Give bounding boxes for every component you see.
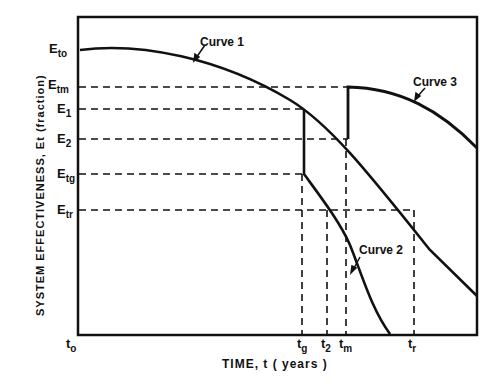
y-axis-title: SYSTEM EFFECTIVENESS, Et (fraction) <box>34 116 46 316</box>
curve-1-label: Curve 1 <box>200 35 244 49</box>
curve-3 <box>348 87 477 148</box>
ytick-e2: E2 <box>57 132 71 145</box>
ytick-main: E <box>57 202 66 217</box>
ytick-main: E <box>57 166 66 181</box>
curve-3-label: Curve 3 <box>413 75 457 89</box>
ytick-e1: E1 <box>57 102 71 115</box>
xtick-sub: 2 <box>325 343 331 354</box>
ytick-sub: tm <box>57 84 69 95</box>
ytick-sub: 1 <box>66 108 72 119</box>
ytick-etm: Etm <box>48 78 69 91</box>
ytick-sub: tg <box>66 173 75 184</box>
xtick-sub: g <box>301 343 307 354</box>
xtick-tr: tr <box>408 337 416 350</box>
ytick-sub: tr <box>66 209 73 220</box>
ytick-main: E <box>57 101 66 116</box>
effectiveness-diagram <box>0 0 493 389</box>
xtick-to: to <box>66 337 76 350</box>
xtick-sub: m <box>343 343 352 354</box>
vertical-guides <box>302 139 414 334</box>
xtick-sub: r <box>412 343 416 354</box>
label-arrows <box>194 45 425 273</box>
plot-frame <box>78 17 477 335</box>
xtick-tg: tg <box>297 337 307 350</box>
horizontal-guides <box>79 87 415 210</box>
ytick-main: E <box>57 131 66 146</box>
ytick-sub: 2 <box>66 138 72 149</box>
ytick-eto: Eto <box>49 42 67 55</box>
ytick-main: E <box>48 77 57 92</box>
xtick-tm: tm <box>339 337 352 350</box>
xtick-t2: t2 <box>321 337 331 350</box>
ytick-main: E <box>49 41 58 56</box>
ytick-sub: to <box>58 48 67 59</box>
x-axis-title: TIME, t ( years ) <box>222 357 328 371</box>
ytick-etr: Etr <box>57 203 73 216</box>
curve-2-label: Curve 2 <box>359 243 403 257</box>
xtick-sub: o <box>70 343 76 354</box>
curve-2 <box>304 109 390 334</box>
ytick-etg: Etg <box>57 167 75 180</box>
